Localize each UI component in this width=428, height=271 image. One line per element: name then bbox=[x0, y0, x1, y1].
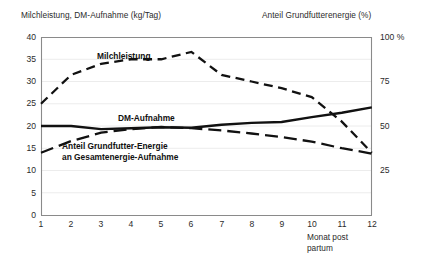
y-left-tick-20: 20 bbox=[14, 121, 36, 131]
chart-container: Milchleistung, DM-Aufnahme (kg/Tag) Ante… bbox=[0, 0, 428, 271]
x-tick-5: 5 bbox=[151, 219, 171, 229]
x-tick-11: 11 bbox=[332, 219, 352, 229]
y-right-tick-75: 75 bbox=[380, 76, 410, 86]
y-right-tick-50: 50 bbox=[380, 121, 410, 131]
x-tick-1: 1 bbox=[31, 219, 51, 229]
series-label-dm-aufnahme: DM-Aufnahme bbox=[118, 113, 175, 123]
y-left-tick-30: 30 bbox=[14, 76, 36, 86]
x-tick-12: 12 bbox=[362, 219, 382, 229]
y-right-tick-25: 25 bbox=[380, 165, 410, 175]
x-tick-6: 6 bbox=[181, 219, 201, 229]
x-tick-9: 9 bbox=[272, 219, 292, 229]
y-left-tick-25: 25 bbox=[14, 98, 36, 108]
x-tick-2: 2 bbox=[61, 219, 81, 229]
x-tick-7: 7 bbox=[212, 219, 232, 229]
x-tick-3: 3 bbox=[91, 219, 111, 229]
x-tick-8: 8 bbox=[242, 219, 262, 229]
y-left-tick-5: 5 bbox=[14, 188, 36, 198]
x-tick-10: 10 bbox=[302, 219, 322, 229]
x-tick-4: 4 bbox=[121, 219, 141, 229]
y-left-tick-40: 40 bbox=[14, 32, 36, 42]
x-axis-caption: Monat post partum bbox=[307, 232, 348, 253]
y-left-tick-15: 15 bbox=[14, 143, 36, 153]
series-line-milchleistung bbox=[41, 52, 372, 153]
chart-plot-area bbox=[0, 0, 428, 271]
y-left-tick-35: 35 bbox=[14, 54, 36, 64]
y-left-tick-10: 10 bbox=[14, 165, 36, 175]
series-label-milchleistung: Milchleistung bbox=[97, 51, 151, 61]
y-right-tick-100: 100 % bbox=[380, 32, 410, 42]
series-label-grundfutter-energie: Anteil Grundfutter-Energie an Gesamtener… bbox=[62, 141, 178, 163]
